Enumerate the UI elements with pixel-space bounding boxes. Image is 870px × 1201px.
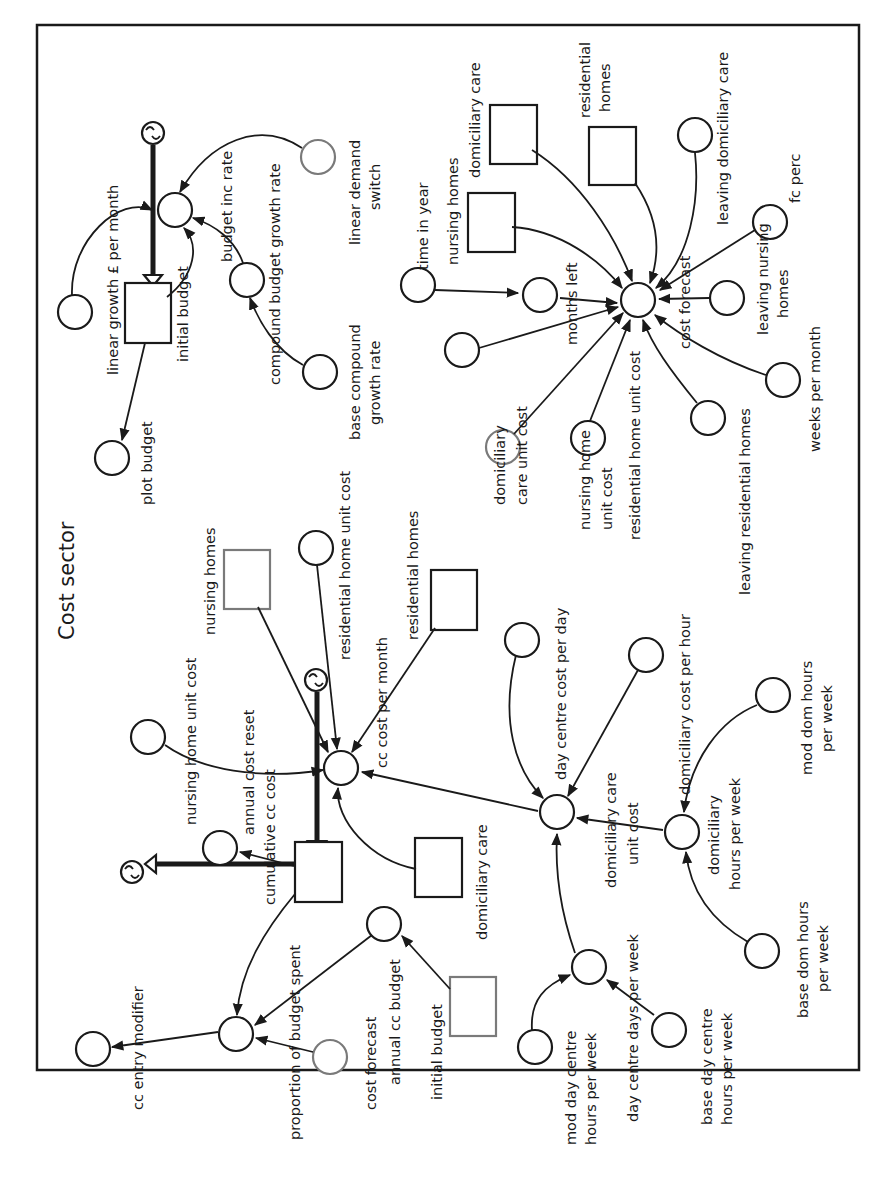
domiciliary-care-stock-right[interactable] — [490, 105, 537, 164]
label-initial-budget-ghost: initial budget — [429, 1004, 445, 1100]
cloud-source-cc-icon — [305, 669, 327, 691]
label-base-compound-1: base compound — [347, 324, 363, 440]
label-mod-dom-hours-2: per week — [819, 685, 835, 752]
base-dom-hours-node[interactable] — [745, 934, 779, 968]
cc-cost-per-month-node[interactable] — [324, 751, 358, 785]
label-plot-budget: plot budget — [139, 421, 155, 505]
domiciliary-cost-per-hour-node[interactable] — [629, 638, 663, 672]
label-domiciliary-hours-1: domiciliary — [706, 795, 722, 875]
label-leaving-nursing-2: homes — [775, 269, 791, 318]
annual-cost-reset-node[interactable] — [203, 831, 237, 865]
residential-home-unit-cost-node-left[interactable] — [299, 531, 333, 565]
initial-budget-ghost-stock[interactable] — [450, 977, 496, 1036]
label-nursing-homes-ghost: nursing homes — [202, 527, 218, 635]
label-cost-forecast-ghost: cost forecast — [363, 1016, 379, 1110]
compound-budget-growth-rate-node[interactable] — [230, 263, 264, 297]
label-time-in-year: time in year — [415, 182, 431, 270]
cc-entry-modifier-node[interactable] — [76, 1032, 110, 1066]
label-domiciliary-care-right: domiciliary care — [467, 62, 483, 178]
leaving-domiciliary-care-node[interactable] — [678, 118, 712, 152]
label-mod-dom-hours-1: mod dom hours — [799, 661, 815, 775]
nursing-home-unit-cost-node-left[interactable] — [131, 720, 165, 754]
leaving-residential-homes-node[interactable] — [691, 401, 725, 435]
label-weeks-per-month: weeks per month — [807, 326, 823, 452]
label-leaving-domiciliary-care: leaving domiciliary care — [715, 52, 731, 225]
cloud-sink-icon — [121, 861, 143, 883]
label-linear-growth: linear growth £ per month — [105, 185, 121, 375]
diagram-title: Cost sector — [55, 521, 79, 640]
label-nursing-home-unit-cost-left: nursing home unit cost — [183, 657, 199, 825]
label-residential-right-1: residential — [577, 42, 593, 118]
label-domiciliary-care-left: domiciliary care — [474, 824, 490, 940]
leaving-nursing-homes-node[interactable] — [710, 281, 744, 315]
label-day-centre-days: day centre days per week — [625, 934, 641, 1122]
cost-sector-diagram: linear growth £ per month initial budget… — [0, 0, 870, 1201]
mod-dom-hours-node[interactable] — [756, 678, 790, 712]
label-leaving-residential-homes: leaving residential homes — [737, 408, 753, 595]
label-leaving-nursing-1: leaving nursing — [755, 223, 771, 335]
label-nursing-home-unit-cost-right-2: unit cost — [599, 467, 615, 530]
label-compound-budget-growth-rate: compound budget growth rate — [267, 163, 283, 385]
cost-forecast-hub-node[interactable] — [621, 283, 655, 317]
label-domiciliary-care-unit-cost-right-1: domiciliary — [492, 425, 508, 505]
label-cc-entry-modifier: cc entry modifier — [130, 986, 146, 1110]
nursing-homes-stock-right[interactable] — [468, 193, 515, 252]
label-base-dom-hours-2: per week — [815, 925, 831, 992]
label-cost-forecast: cost forecast — [677, 255, 693, 349]
label-months-left: months left — [564, 262, 580, 345]
label-fc-perc: fc perc — [787, 154, 803, 203]
label-initial-budget: initial budget — [175, 266, 191, 362]
cost-forecast-ghost-node[interactable] — [313, 1040, 347, 1074]
label-nursing-home-unit-cost-right-1: nursing home — [577, 430, 593, 530]
initial-budget-stock[interactable] — [125, 283, 171, 343]
base-day-centre-hours-node[interactable] — [652, 1013, 686, 1047]
label-annual-cc-budget: annual cc budget — [387, 959, 403, 1085]
months-left-node[interactable] — [523, 278, 557, 312]
day-centre-days-per-week-node[interactable] — [572, 950, 606, 984]
label-base-compound-2: growth rate — [367, 340, 383, 425]
base-compound-growth-rate-node[interactable] — [303, 355, 337, 389]
label-base-dom-hours-1: base dom hours — [795, 901, 811, 1018]
label-domiciliary-hours-2: hours per week — [727, 777, 743, 890]
day-centre-cost-per-day-node[interactable] — [505, 623, 539, 657]
label-residential-right-2: homes — [597, 63, 613, 112]
label-domiciliary-care-unit-cost-2: unit cost — [625, 802, 641, 865]
label-domiciliary-care-unit-cost-1: domiciliary care — [603, 772, 619, 888]
label-day-centre-cost-per-day: day centre cost per day — [553, 607, 569, 780]
label-budget-inc-rate: budget inc rate — [219, 151, 235, 262]
label-base-day-centre-2: hours per week — [719, 1012, 735, 1125]
domiciliary-care-unit-cost-node[interactable] — [540, 795, 574, 829]
label-nursing-homes-right: nursing homes — [445, 157, 461, 265]
domiciliary-hours-per-week-node[interactable] — [665, 815, 699, 849]
label-domiciliary-cost-per-hour: domiciliary cost per hour — [677, 614, 693, 795]
domiciliary-care-stock-left[interactable] — [415, 838, 462, 897]
label-linear-demand-2: switch — [367, 164, 383, 210]
proportion-of-budget-spent-node[interactable] — [219, 1017, 253, 1051]
mod-day-centre-hours-node[interactable] — [518, 1030, 552, 1064]
linear-demand-switch-node[interactable] — [301, 140, 335, 174]
unlabeled-input-node[interactable] — [445, 333, 479, 367]
label-residential-homes-left: residential homes — [405, 511, 421, 640]
budget-inc-rate-node[interactable] — [158, 193, 192, 227]
label-cumulative-cc-cost: cumulative cc cost — [262, 769, 278, 905]
label-mod-day-centre-1: mod day centre — [563, 1030, 579, 1145]
cloud-source-icon — [142, 122, 164, 144]
label-proportion-of-budget-spent: proportion of budget spent — [287, 944, 303, 1140]
label-domiciliary-care-unit-cost-right-2: care unit cost — [514, 406, 530, 505]
residential-homes-stock-left[interactable] — [431, 570, 477, 630]
label-mod-day-centre-2: hours per week — [583, 1032, 599, 1145]
label-cc-cost-per-month: cc cost per month — [374, 637, 390, 768]
residential-homes-stock-right[interactable] — [589, 127, 636, 185]
cumulative-cc-cost-stock[interactable] — [295, 842, 342, 902]
time-in-year-node[interactable] — [401, 268, 435, 302]
label-linear-demand-1: linear demand — [347, 140, 363, 245]
label-base-day-centre-1: base day centre — [699, 1008, 715, 1125]
label-annual-cost-reset: annual cost reset — [241, 709, 257, 835]
nursing-homes-ghost-stock[interactable] — [224, 550, 270, 609]
label-residential-home-unit-cost-left: residential home unit cost — [337, 470, 353, 660]
plot-budget-node[interactable] — [95, 441, 129, 475]
label-residential-home-unit-cost-right: residential home unit cost — [627, 350, 643, 540]
linear-growth-node[interactable] — [58, 295, 92, 329]
weeks-per-month-node[interactable] — [766, 363, 800, 397]
